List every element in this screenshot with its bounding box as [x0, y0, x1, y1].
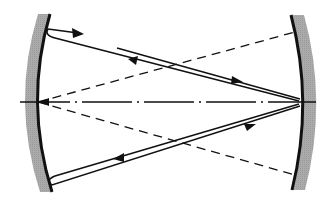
lower-dashed-line — [38, 102, 295, 175]
arrow-left-icon — [113, 153, 124, 162]
resonator-diagram — [0, 0, 335, 205]
arrow-right-icon — [244, 124, 256, 131]
arrow-right-icon — [72, 28, 84, 38]
axis-arrow-icon — [39, 98, 49, 106]
